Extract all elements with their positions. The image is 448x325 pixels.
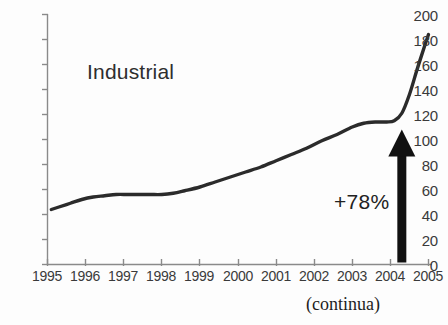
- y-tick-label-40: 40: [394, 208, 438, 223]
- growth-annotation-label: +78%: [334, 190, 390, 214]
- x-tick-label-2005: 2005: [405, 268, 448, 284]
- y-tick-label-60: 60: [394, 183, 438, 198]
- y-tick-label-100: 100: [394, 133, 438, 148]
- axis-group: [42, 14, 432, 266]
- y-tick-label-120: 120: [394, 108, 438, 123]
- y-tick-label-200: 200: [394, 8, 438, 23]
- y-tick-label-80: 80: [394, 158, 438, 173]
- y-tick-label-20: 20: [394, 233, 438, 248]
- y-tick-label-140: 140: [394, 83, 438, 98]
- chart-title: Industrial: [87, 60, 174, 84]
- figure-caption: (continua): [306, 294, 380, 315]
- y-tick-label-160: 160: [394, 58, 438, 73]
- y-tick-label-180: 180: [394, 33, 438, 48]
